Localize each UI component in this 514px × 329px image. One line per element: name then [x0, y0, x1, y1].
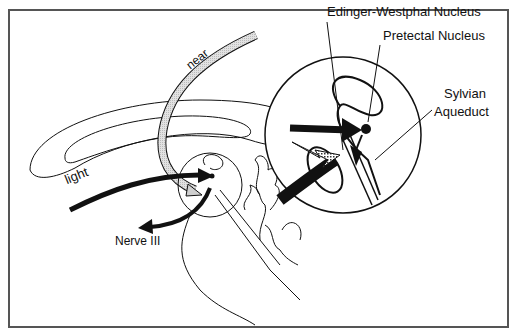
pretectal-nucleus-label: Pretectal Nucleus	[383, 28, 485, 43]
brain-diagram	[0, 0, 514, 329]
aqueduct-label: Aqueduct	[434, 104, 489, 119]
edinger-westphal-label: Edinger-Westphal Nucleus	[327, 4, 481, 19]
diagram-canvas: Edinger-Westphal Nucleus Pretectal Nucle…	[0, 0, 514, 329]
nerve-iii-label: Nerve III	[115, 234, 160, 248]
inset-magnified-circle	[265, 57, 421, 213]
near-pathway-tract	[162, 35, 256, 196]
pretectal-nucleus-dot	[361, 124, 371, 134]
sylvian-label: Sylvian	[444, 86, 486, 101]
